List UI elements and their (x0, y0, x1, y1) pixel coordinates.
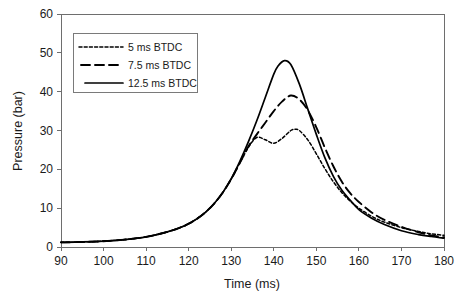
y-axis-title: Pressure (bar) (11, 91, 25, 171)
x-tick-label: 90 (54, 254, 68, 268)
y-tick-label: 50 (40, 46, 54, 60)
x-tick-label: 120 (179, 254, 199, 268)
x-tick-label: 130 (221, 254, 241, 268)
x-tick-label: 110 (137, 254, 156, 268)
x-tick-label: 140 (264, 254, 284, 268)
x-tick-label: 160 (349, 254, 369, 268)
pressure-vs-time-line-chart: 90100110120130140150160170180 0102030405… (0, 0, 471, 300)
x-tick-label: 180 (434, 254, 454, 268)
chart-legend: 5 ms BTDC7.5 ms BTDC12.5 ms BTDC (73, 33, 197, 92)
x-tick-label: 170 (391, 254, 411, 268)
y-tick-label: 60 (40, 7, 54, 21)
y-tick-label: 40 (40, 85, 54, 99)
legend-label-1: 7.5 ms BTDC (128, 59, 191, 71)
x-tick-label: 100 (94, 254, 114, 268)
legend-label-0: 5 ms BTDC (128, 41, 183, 53)
y-tick-label: 10 (40, 201, 54, 215)
x-axis-title: Time (ms) (224, 277, 280, 291)
y-tick-label: 20 (40, 162, 54, 176)
chart-figure: 90100110120130140150160170180 0102030405… (0, 0, 471, 300)
y-tick-label: 0 (46, 240, 53, 254)
y-tick-label: 30 (40, 124, 54, 138)
legend-label-2: 12.5 ms BTDC (128, 77, 197, 89)
x-tick-label: 150 (306, 254, 326, 268)
